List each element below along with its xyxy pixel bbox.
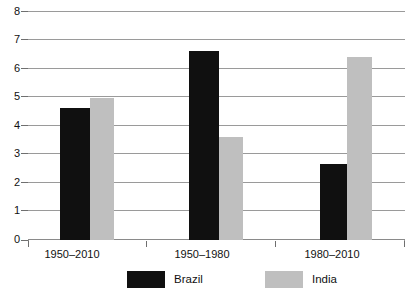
gridline (28, 39, 405, 40)
x-axis-tick (275, 241, 276, 247)
bar-brazil-1950-2010 (60, 108, 90, 240)
y-axis-tick-label: 6 (0, 63, 20, 74)
y-axis-tick (21, 182, 28, 183)
bar-chart: 8 7 6 5 4 3 2 1 0 (0, 0, 411, 295)
x-axis-tick (404, 241, 405, 247)
y-axis-labels: 8 7 6 5 4 3 2 1 0 (0, 0, 20, 295)
y-axis-tick-label: 0 (0, 234, 20, 245)
x-axis-category-label: 1950–1980 (157, 248, 247, 260)
x-axis-category-label: 1980–2010 (287, 248, 377, 260)
y-axis-tick-label: 7 (0, 34, 20, 45)
y-axis-tick (21, 153, 28, 154)
y-axis-tick-label: 5 (0, 91, 20, 102)
y-axis-tick (21, 11, 28, 12)
legend-label-brazil: Brazil (174, 273, 203, 285)
y-axis-tick (21, 68, 28, 69)
y-axis-tick-label: 8 (0, 6, 20, 17)
legend-label-india: India (312, 273, 337, 285)
legend-entry-brazil: Brazil (127, 269, 203, 289)
bar-india-1950-1980 (219, 137, 243, 240)
legend-swatch-icon-brazil (127, 271, 165, 288)
y-axis-tick-label: 4 (0, 120, 20, 131)
bar-india-1950-2010 (90, 98, 114, 240)
x-axis-tick (28, 241, 29, 247)
y-axis-tick (21, 96, 28, 97)
y-axis-tick (21, 240, 28, 241)
x-axis-category-label: 1950–2010 (27, 248, 117, 260)
x-axis-tick (146, 241, 147, 247)
legend: Brazil India (0, 269, 411, 293)
bar-brazil-1980-2010 (320, 164, 347, 240)
plot-area (28, 11, 405, 240)
bar-brazil-1950-1980 (189, 51, 219, 240)
legend-swatch-icon-india (265, 271, 303, 288)
y-axis-tick-label: 1 (0, 205, 20, 216)
y-axis-tick (21, 39, 28, 40)
y-axis-tick (21, 125, 28, 126)
y-axis-tick-label: 3 (0, 148, 20, 159)
y-axis-tick (21, 210, 28, 211)
gridline (28, 11, 405, 12)
y-axis-tick-label: 2 (0, 177, 20, 188)
bar-india-1980-2010 (347, 57, 372, 240)
legend-entry-india: India (265, 269, 337, 289)
